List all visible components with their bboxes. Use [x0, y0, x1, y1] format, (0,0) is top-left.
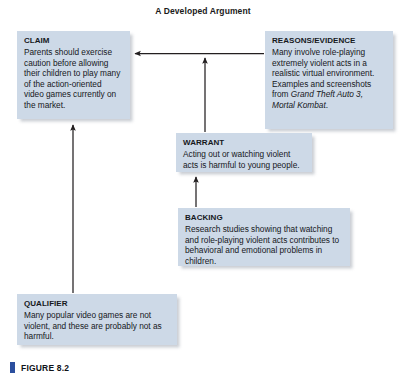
node-backing-body: Research studies showing that watching a… [185, 224, 343, 266]
reasons-body-plain-tail: . [326, 100, 328, 110]
node-claim: CLAIM Parents should exercise caution be… [17, 31, 130, 119]
node-reasons-evidence-label: REASONS/EVIDENCE [272, 36, 386, 47]
node-warrant-label: WARRANT [183, 138, 305, 149]
node-reasons-evidence: REASONS/EVIDENCE Many involve role-playi… [265, 31, 393, 129]
node-warrant-body: Acting out or watching violent acts is h… [183, 149, 305, 170]
node-qualifier-body: Many popular video games are not violent… [24, 310, 170, 342]
node-qualifier-label: QUALIFIER [24, 299, 170, 310]
node-backing: BACKING Research studies showing that wa… [178, 208, 350, 266]
node-claim-label: CLAIM [24, 36, 123, 47]
node-qualifier: QUALIFIER Many popular video games are n… [17, 294, 177, 345]
figure-caption: FIGURE 8.2 [10, 362, 69, 373]
diagram-title: A Developed Argument [0, 6, 406, 16]
node-claim-body: Parents should exercise caution before a… [24, 47, 123, 111]
node-backing-label: BACKING [185, 213, 343, 224]
figure-container: A Developed Argument CLAIM Parents shoul… [0, 0, 406, 384]
figure-caption-text: FIGURE 8.2 [21, 363, 69, 373]
node-warrant: WARRANT Acting out or watching violent a… [176, 133, 312, 172]
caption-marker-icon [10, 362, 15, 373]
node-reasons-evidence-body: Many involve role-playing extremely viol… [272, 47, 386, 111]
